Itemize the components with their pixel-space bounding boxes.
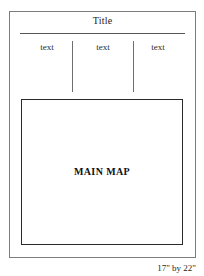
text-column-1: text — [21, 41, 73, 53]
text-column-2: text — [77, 41, 129, 53]
column-divider-2 — [133, 41, 134, 92]
text-column-3: text — [132, 41, 184, 53]
text-column-group: text text text — [21, 41, 184, 93]
column-divider-1 — [72, 41, 73, 92]
sheet-dimensions-label: 17" by 22" — [157, 262, 196, 274]
page-title: Title — [9, 14, 196, 27]
main-map-frame: MAIN MAP — [21, 99, 183, 245]
main-map-label: MAIN MAP — [22, 166, 182, 177]
title-divider-rule — [20, 33, 185, 34]
